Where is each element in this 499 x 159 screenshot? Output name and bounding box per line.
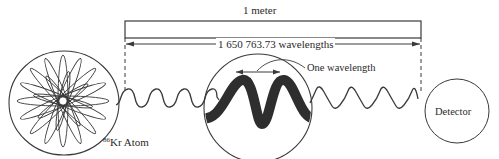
wavelength-arrowhead-left-icon bbox=[236, 70, 243, 75]
meter-bar bbox=[125, 21, 421, 38]
magnified-wave bbox=[200, 54, 318, 159]
electron-orbits-icon bbox=[17, 55, 109, 147]
one-wavelength-leader bbox=[257, 60, 305, 71]
arrowhead-right-icon bbox=[412, 42, 420, 47]
detector-label: Detector bbox=[435, 106, 471, 117]
light-wave-right bbox=[310, 87, 418, 108]
wavelength-count-label: 1 650 763.73 wavelengths bbox=[216, 38, 335, 50]
arrowhead-left-icon bbox=[126, 42, 134, 47]
one-wavelength-label: One wavelength bbox=[307, 62, 376, 73]
light-wave-left bbox=[116, 89, 219, 107]
meter-label: 1 meter bbox=[243, 4, 276, 16]
isotope-mass-number: 86 bbox=[103, 136, 110, 144]
kr86-meter-definition-diagram bbox=[0, 0, 499, 159]
atom-label: Kr Atom bbox=[110, 136, 149, 148]
wavelength-arrowhead-right-icon bbox=[273, 70, 280, 75]
krypton-atom-label: 86Kr Atom bbox=[103, 136, 149, 148]
thick-wave-icon bbox=[200, 80, 318, 124]
